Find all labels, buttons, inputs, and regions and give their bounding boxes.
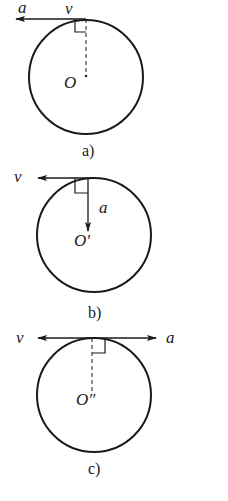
figure-c: v a O″ c) <box>16 328 175 478</box>
circle-b <box>37 178 151 292</box>
velocity-label-c: v <box>16 328 24 347</box>
figure-b: v a O′ b) <box>14 167 151 322</box>
caption-b: b) <box>88 304 101 322</box>
center-label-a: O <box>64 73 76 92</box>
caption-a: a) <box>82 142 94 160</box>
caption-c: c) <box>88 460 100 478</box>
right-angle-marker-c <box>92 338 105 353</box>
acceleration-label-a: a <box>18 0 27 17</box>
center-label-c: O″ <box>76 390 96 409</box>
center-dot-a <box>85 75 87 77</box>
velocity-label-a: v <box>65 0 73 18</box>
center-label-b: O′ <box>74 231 90 250</box>
acceleration-label-b: a <box>99 198 108 217</box>
circular-motion-diagram: a v O a) v a O′ b) v a O″ c) <box>0 0 228 501</box>
figure-a: a v O a) <box>16 0 143 160</box>
acceleration-label-c: a <box>166 328 175 347</box>
velocity-label-b: v <box>14 167 22 186</box>
